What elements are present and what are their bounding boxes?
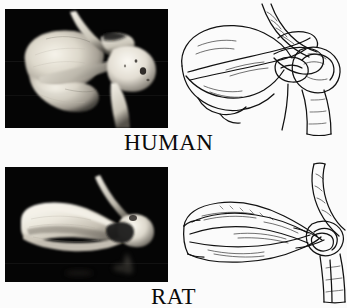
comparative-anatomy-figure: HUMAN [0, 0, 347, 308]
rat-label: RAT [151, 285, 196, 308]
human-label: HUMAN [124, 131, 213, 154]
human-shoulder-photograph [5, 9, 168, 128]
rat-photograph-content [5, 167, 168, 282]
rat-drawing-content [174, 162, 346, 304]
rat-shoulder-line-drawing [174, 162, 346, 304]
human-photograph-content [5, 9, 168, 128]
human-shoulder-line-drawing [174, 2, 346, 136]
rat-shoulder-photograph [5, 167, 168, 282]
human-drawing-content [174, 2, 346, 136]
